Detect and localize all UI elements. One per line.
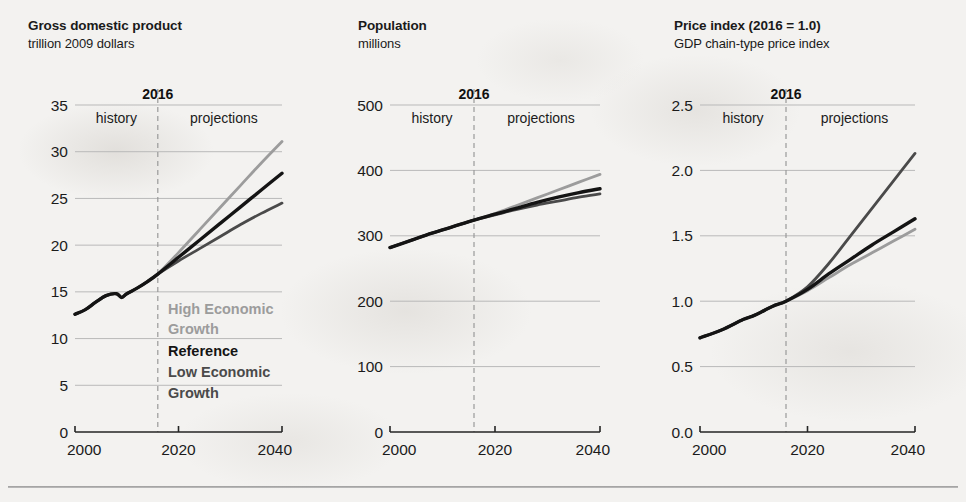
svg-text:2016: 2016 — [458, 86, 489, 102]
svg-text:30: 30 — [51, 143, 69, 160]
svg-text:2040: 2040 — [576, 441, 611, 458]
svg-text:5: 5 — [59, 377, 68, 394]
svg-text:300: 300 — [357, 227, 383, 244]
svg-text:25: 25 — [51, 190, 68, 207]
svg-text:10: 10 — [51, 330, 69, 347]
chart-panel-population: Population millions 01002003004005002016… — [330, 0, 650, 502]
svg-text:history: history — [96, 110, 137, 126]
svg-text:0: 0 — [59, 424, 68, 441]
svg-text:2020: 2020 — [161, 441, 196, 458]
legend-label-low-2: Growth — [168, 385, 219, 401]
svg-text:2020: 2020 — [790, 441, 825, 458]
svg-text:2040: 2040 — [891, 441, 926, 458]
footer-divider-rule — [8, 486, 958, 488]
svg-text:200: 200 — [357, 293, 383, 310]
plot-area-price-index: 0.00.51.01.52.02.52016historyprojections… — [650, 0, 966, 470]
svg-text:1.0: 1.0 — [671, 293, 693, 310]
svg-text:2000: 2000 — [67, 441, 102, 458]
legend-label-high-1: High Economic — [168, 301, 274, 317]
svg-text:2040: 2040 — [258, 441, 293, 458]
svg-text:500: 500 — [357, 97, 383, 114]
svg-text:2016: 2016 — [770, 86, 801, 102]
svg-text:projections: projections — [507, 110, 575, 126]
svg-text:15: 15 — [51, 283, 68, 300]
legend-label-reference: Reference — [168, 343, 238, 359]
svg-text:35: 35 — [51, 97, 68, 114]
svg-text:20: 20 — [51, 237, 69, 254]
legend-label-high-2: Growth — [168, 321, 219, 337]
plot-area-gdp: 051015202530352016historyprojections2000… — [0, 0, 330, 470]
svg-text:projections: projections — [190, 110, 258, 126]
svg-text:1.5: 1.5 — [671, 227, 693, 244]
svg-text:0.5: 0.5 — [671, 358, 693, 375]
svg-text:2000: 2000 — [692, 441, 727, 458]
chart-panel-gross-domestic-product: Gross domestic product trillion 2009 dol… — [0, 0, 330, 502]
chart-panel-price-index: Price index (2016 = 1.0) GDP chain-type … — [650, 0, 966, 502]
svg-text:history: history — [411, 110, 452, 126]
legend-label-low-1: Low Economic — [168, 364, 270, 380]
svg-text:100: 100 — [357, 358, 383, 375]
svg-text:2020: 2020 — [478, 441, 513, 458]
plot-area-population: 01002003004005002016historyprojections20… — [330, 0, 650, 470]
svg-text:0: 0 — [374, 424, 383, 441]
svg-text:projections: projections — [821, 110, 889, 126]
svg-text:2.0: 2.0 — [671, 162, 693, 179]
svg-text:400: 400 — [357, 162, 383, 179]
svg-text:2000: 2000 — [382, 441, 417, 458]
svg-text:0.0: 0.0 — [671, 424, 693, 441]
svg-text:2016: 2016 — [142, 86, 173, 102]
svg-text:2.5: 2.5 — [671, 97, 693, 114]
svg-text:history: history — [722, 110, 763, 126]
